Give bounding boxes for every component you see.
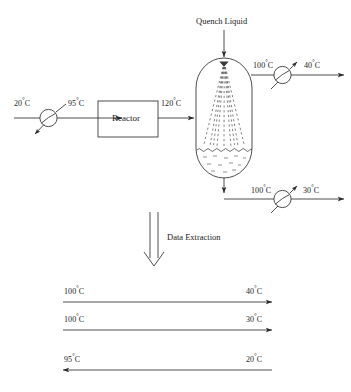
extracted-stream-2-left-temp: 100°C	[64, 316, 84, 324]
extracted-stream-2-right-temp: 30°C	[246, 316, 262, 324]
reactor-outlet-temp: 120°C	[161, 100, 181, 108]
liquid-surface-line	[197, 149, 252, 152]
extracted-stream-3-right-temp: 20°C	[246, 356, 262, 364]
process-flow-diagram: Quench Liquid Reactor Data Extraction 20…	[0, 0, 351, 392]
quench-vessel-shell	[196, 58, 252, 178]
liquid-cooler-icon	[271, 186, 297, 213]
data-extraction-arrow	[144, 212, 164, 266]
extracted-stream-1-right-temp: 40°C	[246, 288, 262, 296]
quench-liquid-label: Quench Liquid	[196, 17, 247, 26]
data-extraction-label: Data Extraction	[167, 233, 221, 242]
vapor-cooler-icon	[271, 62, 297, 89]
liquid-outlet-temp: 100°C	[251, 187, 271, 195]
liquid-cooled-temp: 30°C	[303, 187, 319, 195]
feed-inlet-temp: 20°C	[14, 100, 30, 108]
extracted-stream-3-left-temp: 95°C	[64, 356, 80, 364]
liquid-pool-texture	[203, 156, 246, 172]
diagram-canvas	[0, 0, 351, 392]
vapor-cooled-temp: 40°C	[304, 62, 320, 70]
feed-heat-exchanger-icon	[35, 104, 66, 134]
preheat-outlet-temp: 95°C	[68, 100, 84, 108]
vapor-outlet-temp: 100°C	[253, 62, 273, 70]
reactor-label: Reactor	[112, 114, 140, 123]
spray-nozzle-icon	[221, 62, 228, 66]
extracted-stream-1-left-temp: 100°C	[64, 288, 84, 296]
spray-pattern	[204, 67, 244, 147]
liquid-bottoms-line	[224, 178, 344, 199]
